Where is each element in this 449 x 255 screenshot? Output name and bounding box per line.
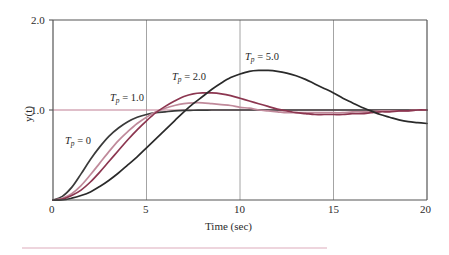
plot-canvas [0, 0, 449, 255]
curve-label-tp0: Tp = 0 [65, 135, 91, 148]
y-axis-title: y(t) [22, 106, 34, 122]
x-tick-20: 20 [420, 203, 431, 215]
curve-label-value: = 2.0 [182, 71, 206, 82]
chart-figure: 2.0 1.0 0 5 10 15 20 y(t) Time (sec) Tp … [0, 0, 449, 255]
x-tick-10: 10 [234, 203, 245, 215]
curve-label-value: = 1.0 [120, 92, 144, 103]
curve-label-tp5: Tp = 5.0 [245, 51, 279, 64]
x-tick-5: 5 [143, 203, 149, 215]
x-axis-title: Time (sec) [205, 220, 252, 232]
x-tick-15: 15 [328, 203, 339, 215]
curve-label-value: = 5.0 [255, 51, 279, 62]
y-tick-2.0: 2.0 [31, 14, 45, 26]
curve-label-tp1: Tp = 1.0 [110, 92, 144, 105]
x-tick-0: 0 [49, 203, 55, 215]
curve-label-tp2: Tp = 2.0 [172, 71, 206, 84]
curve-label-value: = 0 [75, 135, 91, 146]
